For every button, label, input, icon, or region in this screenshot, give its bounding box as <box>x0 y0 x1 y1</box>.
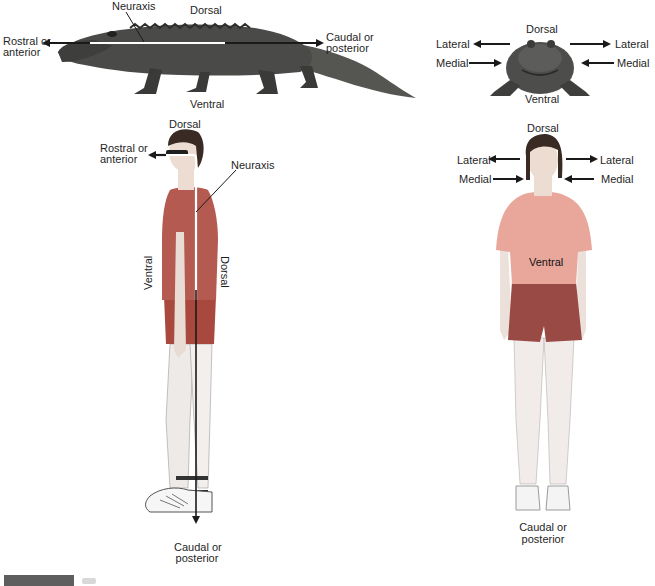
label-dorsal-alligator-side: Dorsal <box>190 4 222 16</box>
label-lateral-right-alligator: Lateral <box>615 38 649 50</box>
alligator-front-figure <box>469 40 614 96</box>
label-ventral-woman: Ventral <box>529 256 563 268</box>
diagram-canvas: Neuraxis Dorsal Rostral or anterior Caud… <box>0 0 655 586</box>
label-medial-left-woman: Medial <box>459 173 491 185</box>
label-dorsal-woman: Dorsal <box>527 122 559 134</box>
illustration-layer <box>0 0 655 586</box>
alligator-side-figure <box>44 12 416 98</box>
label-ventral-man-vertical: Ventral <box>142 256 154 290</box>
label-caudal-alligator-line2: posterior <box>326 42 369 54</box>
label-lateral-left-alligator: Lateral <box>436 38 470 50</box>
label-rostral-alligator-line2: anterior <box>3 46 40 58</box>
label-neuraxis-man: Neuraxis <box>231 159 274 171</box>
label-dorsal-man-vertical: Dorsal <box>219 256 231 288</box>
label-dorsal-alligator-front: Dorsal <box>526 23 558 35</box>
figure-caption-fragment <box>82 578 96 584</box>
label-caudal-woman-line1: Caudal or <box>519 521 567 533</box>
figure-number-block <box>4 575 74 586</box>
label-ventral-alligator-side: Ventral <box>190 98 224 110</box>
label-neuraxis-alligator: Neuraxis <box>112 0 155 12</box>
label-caudal-woman-line2: posterior <box>519 533 567 545</box>
label-lateral-right-woman: Lateral <box>600 154 634 166</box>
label-medial-right-woman: Medial <box>601 173 633 185</box>
label-ventral-alligator-front: Ventral <box>525 93 559 105</box>
woman-front-figure <box>490 134 596 510</box>
label-medial-left-alligator: Medial <box>436 57 468 69</box>
man-side-figure <box>146 129 237 522</box>
label-medial-right-alligator: Medial <box>617 57 649 69</box>
label-caudal-man-line2: posterior <box>174 552 220 564</box>
label-lateral-left-woman: Lateral <box>457 154 491 166</box>
label-dorsal-man-top: Dorsal <box>169 118 201 130</box>
label-rostral-man-line2: anterior <box>100 153 137 165</box>
